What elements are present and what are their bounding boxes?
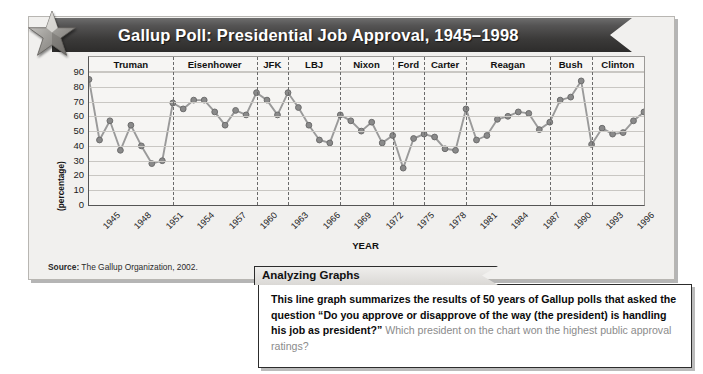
- y-axis-title: JOB APPROVAL (percentage): [42, 56, 58, 216]
- president-band-label: Truman: [89, 58, 173, 71]
- data-point: [306, 122, 312, 128]
- callout-tab-label: Analyzing Graphs: [262, 266, 360, 285]
- x-tick-label: 1978: [446, 210, 467, 231]
- y-tick-label: 40: [62, 139, 84, 150]
- x-tick-label: 1948: [132, 210, 153, 231]
- data-point: [317, 137, 323, 143]
- data-point: [128, 122, 134, 128]
- star-icon: [26, 9, 78, 61]
- data-point: [432, 134, 438, 140]
- data-point: [578, 78, 584, 84]
- president-band-divider: [288, 57, 289, 205]
- y-tick-label: 30: [62, 154, 84, 165]
- chart: JOB APPROVAL (percentage) 90807060504030…: [44, 56, 662, 256]
- data-point: [400, 165, 406, 171]
- president-band-divider: [393, 57, 394, 205]
- x-tick-label: 1963: [289, 210, 310, 231]
- data-point: [97, 137, 103, 143]
- source-note: Source: The Gallup Organization, 2002.: [48, 262, 198, 272]
- figure-page: Gallup Poll: Presidential Job Approval, …: [0, 0, 703, 374]
- data-point: [233, 108, 239, 114]
- y-tick-label: 10: [62, 184, 84, 195]
- y-tick-label: 50: [62, 125, 84, 136]
- president-band-divider: [173, 57, 174, 205]
- president-band-label: Carter: [424, 58, 466, 71]
- president-band-label: Reagan: [466, 58, 550, 71]
- title-banner: Gallup Poll: Presidential Job Approval, …: [52, 18, 652, 54]
- y-tick-label: 0: [62, 199, 84, 210]
- data-point: [568, 94, 574, 100]
- x-tick-label: 1981: [478, 210, 499, 231]
- president-band-label: LBJ: [288, 58, 340, 71]
- x-tick-label: 1984: [509, 210, 530, 231]
- data-point: [411, 136, 417, 142]
- data-point: [107, 118, 113, 124]
- data-point: [89, 77, 92, 83]
- x-tick-label: 1993: [604, 210, 625, 231]
- x-tick-label: 1954: [195, 210, 216, 231]
- x-tick-label: 1969: [352, 210, 373, 231]
- president-band-label: Clinton: [592, 58, 644, 71]
- president-band-divider: [592, 57, 593, 205]
- president-band-divider: [424, 57, 425, 205]
- plot-area: TrumanEisenhowerJFKLBJNixonFordCarterRea…: [88, 56, 645, 206]
- x-tick-label: 1975: [415, 210, 436, 231]
- president-band-divider: [340, 57, 341, 205]
- y-tick-label: 70: [62, 95, 84, 106]
- data-point: [641, 109, 644, 115]
- page-title: Gallup Poll: Presidential Job Approval, …: [118, 18, 519, 52]
- x-tick-label: 1966: [321, 210, 342, 231]
- data-point: [631, 118, 637, 124]
- callout-text: This line graph summarizes the results o…: [271, 292, 677, 354]
- president-band-divider: [257, 57, 258, 205]
- data-point: [515, 109, 521, 115]
- callout-tab: Analyzing Graphs: [254, 266, 554, 285]
- y-axis-ticks: 9080706050403020100: [62, 56, 84, 204]
- president-band-label: Nixon: [340, 58, 392, 71]
- data-point: [118, 147, 124, 153]
- data-point: [212, 109, 218, 115]
- president-band-divider: [550, 57, 551, 205]
- president-band-label: JFK: [257, 58, 288, 71]
- president-band-label: Ford: [393, 58, 424, 71]
- president-band-divider: [466, 57, 467, 205]
- x-tick-label: 1957: [227, 210, 248, 231]
- y-tick-label: 80: [62, 80, 84, 91]
- data-point: [369, 119, 375, 125]
- x-tick-label: 1960: [258, 210, 279, 231]
- data-point: [474, 137, 480, 143]
- data-point: [296, 105, 302, 111]
- x-axis-title: YEAR: [88, 240, 643, 251]
- x-tick-label: 1951: [164, 210, 185, 231]
- x-tick-label: 1996: [635, 210, 656, 231]
- president-band-label: Eisenhower: [173, 58, 257, 71]
- data-point: [180, 106, 186, 112]
- data-point: [222, 122, 228, 128]
- y-tick-label: 60: [62, 110, 84, 121]
- x-tick-label: 1972: [384, 210, 405, 231]
- source-label: Source:: [48, 262, 79, 272]
- x-tick-label: 1987: [541, 210, 562, 231]
- y-tick-label: 90: [62, 66, 84, 77]
- analyzing-graphs-callout: This line graph summarizes the results o…: [258, 284, 692, 368]
- x-tick-label: 1990: [572, 210, 593, 231]
- x-tick-label: 1945: [101, 210, 122, 231]
- data-point: [348, 118, 354, 124]
- president-band-label: Bush: [550, 58, 592, 71]
- source-text: The Gallup Organization, 2002.: [79, 262, 198, 272]
- data-point: [484, 133, 490, 139]
- y-tick-label: 20: [62, 169, 84, 180]
- data-point: [453, 147, 459, 153]
